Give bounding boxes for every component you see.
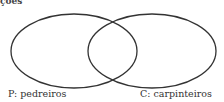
set-c-label: C: carpinteiros xyxy=(140,88,212,99)
set-p-label: P: pedreiros xyxy=(8,88,66,99)
set-p-ellipse xyxy=(11,14,137,88)
set-c-ellipse xyxy=(88,14,216,88)
venn-diagram xyxy=(0,0,224,102)
